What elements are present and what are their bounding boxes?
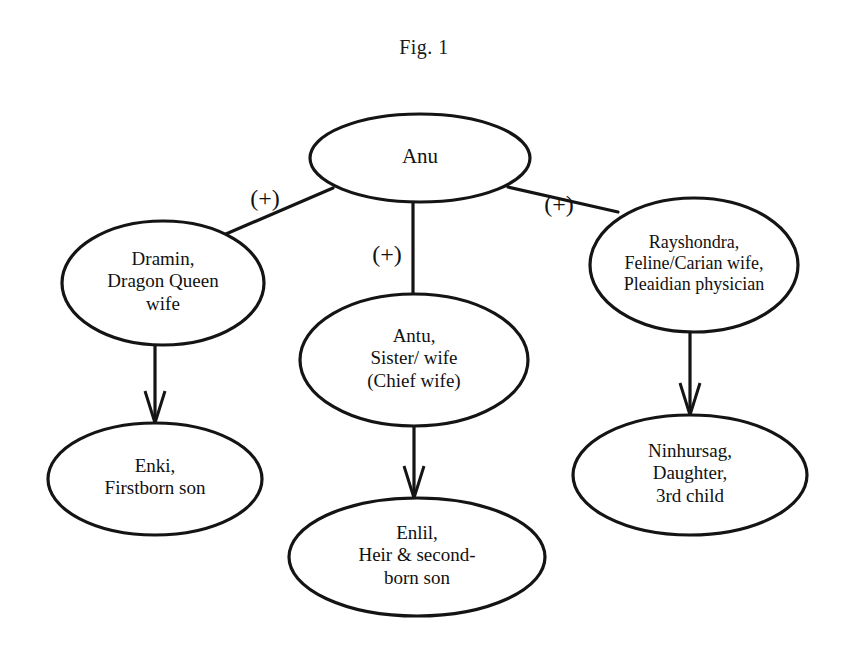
- edge-label-anu-rayshondra: (+): [544, 191, 574, 217]
- edge-dramin-enki: [145, 345, 165, 423]
- node-label-dramin-line-0: Dramin,: [132, 248, 195, 269]
- node-label-enlil-line-2: born son: [384, 567, 450, 588]
- node-label-ninhursag-line-2: 3rd child: [656, 485, 725, 506]
- node-dramin[interactable]: Dramin,Dragon Queenwife: [62, 221, 264, 345]
- edge-rayshondra-ninhursag: [680, 332, 700, 415]
- figure-container: Fig. 1 AnuDramin,Dragon QueenwifeAntu,Si…: [0, 0, 848, 650]
- node-label-rayshondra-line-2: Pleaidian physician: [624, 274, 764, 294]
- node-label-antu-line-0: Antu,: [393, 325, 436, 346]
- node-enlil[interactable]: Enlil,Heir & second-born son: [289, 498, 545, 616]
- node-label-ninhursag-line-1: Daughter,: [653, 462, 728, 483]
- node-anu[interactable]: Anu: [310, 114, 530, 202]
- node-ninhursag[interactable]: Ninhursag,Daughter,3rd child: [573, 415, 807, 535]
- edge-label-anu-antu: (+): [372, 241, 402, 267]
- node-enki[interactable]: Enki,Firstborn son: [48, 423, 262, 535]
- node-label-dramin-line-2: wife: [146, 293, 180, 314]
- node-label-enlil-line-1: Heir & second-: [358, 544, 475, 565]
- node-rayshondra[interactable]: Rayshondra,Feline/Carian wife,Pleaidian …: [590, 198, 798, 332]
- node-label-enki-line-1: Firstborn son: [105, 477, 206, 498]
- edge-label-anu-dramin: (+): [250, 185, 280, 211]
- node-antu[interactable]: Antu,Sister/ wife(Chief wife): [300, 294, 528, 426]
- node-label-rayshondra-line-1: Feline/Carian wife,: [625, 253, 764, 273]
- node-label-anu-line-0: Anu: [402, 144, 439, 168]
- node-label-dramin-line-1: Dragon Queen: [107, 270, 219, 291]
- family-tree-diagram: AnuDramin,Dragon QueenwifeAntu,Sister/ w…: [0, 0, 848, 650]
- edge-antu-enlil: [404, 426, 424, 498]
- node-label-rayshondra-line-0: Rayshondra,: [649, 232, 739, 252]
- node-layer: AnuDramin,Dragon QueenwifeAntu,Sister/ w…: [48, 114, 807, 616]
- node-label-enlil-line-0: Enlil,: [396, 522, 438, 543]
- node-label-enki-line-0: Enki,: [135, 455, 176, 476]
- node-label-antu-line-1: Sister/ wife: [370, 347, 457, 368]
- node-label-antu-line-2: (Chief wife): [367, 370, 460, 392]
- node-label-ninhursag-line-0: Ninhursag,: [648, 440, 732, 461]
